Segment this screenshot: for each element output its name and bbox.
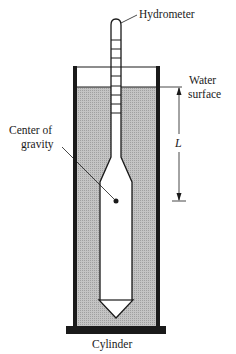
cylinder-base [66,326,166,334]
arrow-down-icon [177,193,182,201]
cylinder-left-wall [73,66,77,328]
cylinder-label: Cylinder [92,338,132,351]
water-surface-label-1: Water [189,74,216,86]
center-of-gravity-label-1: Center of [9,124,52,136]
hydrometer-diagram: Hydrometer Water surface L Center of gra… [0,0,236,354]
hydrometer-leader [121,15,137,23]
water-surface-label-2: surface [188,88,221,100]
arrow-up-icon [177,87,182,95]
hydrometer-label: Hydrometer [139,8,195,21]
length-label: L [174,136,182,150]
center-of-gravity-label-2: gravity [21,138,54,151]
center-of-gravity-dot [114,199,119,204]
cylinder-right-wall [156,66,160,328]
